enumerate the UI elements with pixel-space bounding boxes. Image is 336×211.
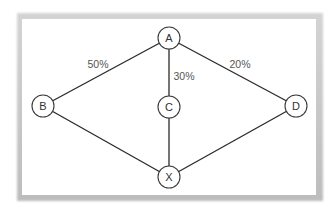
edge-d-x: [169, 106, 296, 177]
node-label-a: A: [165, 32, 173, 44]
node-a: A: [158, 27, 180, 49]
edge-label-a-b: 50%: [87, 58, 108, 70]
node-x: X: [158, 166, 180, 188]
node-label-b: B: [39, 100, 46, 112]
node-label-x: X: [165, 171, 173, 183]
edge-label-a-c: 30%: [173, 70, 194, 82]
node-b: B: [32, 95, 54, 117]
node-label-d: D: [292, 100, 300, 112]
edge-a-b: [43, 38, 169, 106]
node-c: C: [158, 96, 180, 118]
node-label-c: C: [165, 101, 173, 113]
edge-label-a-d: 20%: [229, 58, 250, 70]
network-diagram: 50% 30% 20% A B C D X: [0, 0, 336, 211]
node-d: D: [285, 95, 307, 117]
edge-b-x: [43, 106, 169, 177]
